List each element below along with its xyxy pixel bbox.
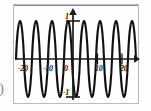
- figure-thumbnail: ) -20 -1: [0, 0, 151, 111]
- plot-canvas: [14, 5, 138, 103]
- x-tick-label--20: -20: [18, 65, 28, 73]
- x-tick-label-0: 0: [64, 65, 68, 73]
- y-tick-label--1: -1: [63, 89, 69, 97]
- x-tick-label-20: 20: [120, 65, 127, 73]
- y-tick-label-1: 1: [65, 13, 69, 21]
- y-axis-arrow-icon: [69, 8, 77, 15]
- x-tick-label-10: 10: [95, 65, 102, 73]
- x-tick-label--10: -10: [43, 65, 53, 73]
- graph-svg: [14, 5, 140, 105]
- x-axis-arrow-icon: [134, 55, 140, 63]
- plot-frame: -20 -10 0 10 20 1 -1: [13, 4, 139, 104]
- option-label-paren: ): [0, 77, 11, 99]
